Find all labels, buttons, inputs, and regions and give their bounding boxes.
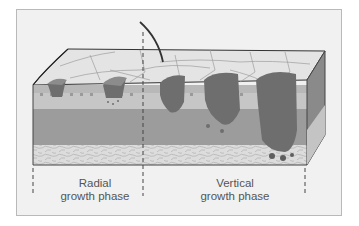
vertical-label-line2: growth phase: [170, 190, 300, 203]
vertical-label-line1: Vertical: [170, 177, 300, 190]
radial-growth-phase-label: Radial growth phase: [40, 177, 150, 203]
vertical-growth-phase-label: Vertical growth phase: [170, 177, 300, 203]
radial-label-line1: Radial: [40, 177, 150, 190]
radial-label-line2: growth phase: [40, 190, 150, 203]
